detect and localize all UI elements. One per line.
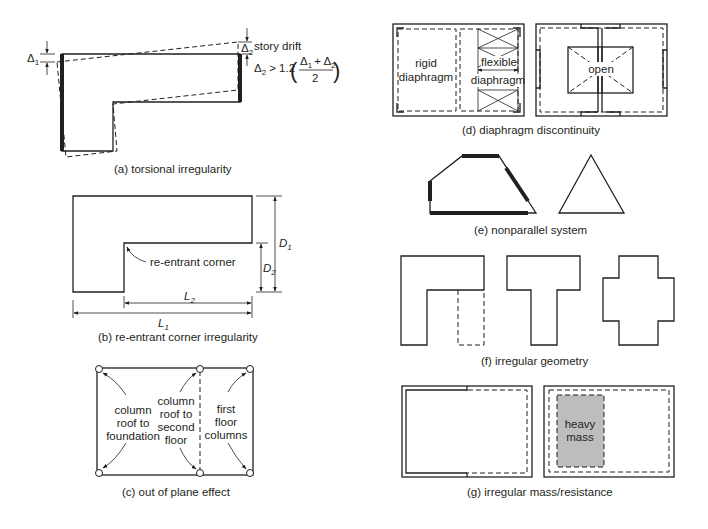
caption-d: (d) diaphragm discontinuity <box>462 124 600 136</box>
deflected-shape <box>57 42 238 157</box>
svg-text:column: column <box>157 395 194 407</box>
mid-column-label: column roof to second floor <box>157 395 194 446</box>
svg-text:roof to: roof to <box>117 417 150 429</box>
l1-label: L1 <box>158 317 169 332</box>
panel-g-irregular-mass: heavy mass (g) irregular mass/resistance <box>402 386 674 498</box>
t-shape-geometry <box>507 256 580 345</box>
svg-text:floor: floor <box>215 416 238 428</box>
flexible-label: flexible <box>481 56 517 68</box>
heavy-mass-label: heavy <box>565 418 596 430</box>
svg-text:2: 2 <box>312 72 318 84</box>
panel-d-diaphragm-discontinuity: rigid diaphragm flexible diaphragm open … <box>393 24 667 136</box>
panel-e-nonparallel-system: (e) nonparallel system <box>430 155 624 236</box>
nonparallel-polygon <box>430 156 536 213</box>
svg-text:roof to: roof to <box>160 408 193 420</box>
l-shape-geometry <box>401 256 484 345</box>
d1-label: D1 <box>279 237 292 252</box>
l-shape-outline <box>62 54 240 151</box>
caption-e: (e) nonparallel system <box>474 224 587 236</box>
caption-c: (c) out of plane effect <box>122 486 231 498</box>
triangle-plan <box>559 155 624 213</box>
right-column-label: first floor columns <box>205 403 248 441</box>
delta2-label: Δ2 <box>241 42 254 57</box>
panel-f-irregular-geometry: (f) irregular geometry <box>401 256 674 367</box>
panel-a-torsional-irregularity: Δ1 Δ2 story drift Δ2> 1.2 ( Δ1+ Δ2 2 ) (… <box>27 28 340 175</box>
cross-shape-geometry <box>603 256 674 345</box>
caption-f: (f) irregular geometry <box>481 355 589 367</box>
caption-a: (a) torsional irregularity <box>114 163 232 175</box>
re-entrant-corner-label: re-entrant corner <box>150 256 236 268</box>
svg-text:Δ1+ Δ2: Δ1+ Δ2 <box>300 55 336 70</box>
panel-c-out-of-plane: column roof to foundation column roof to… <box>96 366 254 499</box>
svg-text:diaphragm: diaphragm <box>399 71 453 83</box>
story-drift-label: story drift <box>254 40 302 52</box>
seismic-irregularities-figure: Δ1 Δ2 story drift Δ2> 1.2 ( Δ1+ Δ2 2 ) (… <box>0 0 708 529</box>
torsion-formula: Δ2> 1.2 ( Δ1+ Δ2 2 ) <box>254 55 340 84</box>
svg-text:): ) <box>333 58 340 83</box>
svg-text:(: ( <box>290 58 298 83</box>
svg-text:Δ2> 1.2: Δ2> 1.2 <box>254 62 295 77</box>
svg-text:floor: floor <box>165 434 188 446</box>
d2-label: D2 <box>263 262 276 277</box>
svg-text:mass: mass <box>566 431 594 443</box>
flexible-bracing <box>478 29 518 111</box>
delta1-label: Δ1 <box>27 52 40 67</box>
left-column-label: column roof to foundation <box>106 404 160 442</box>
svg-text:columns: columns <box>205 429 248 441</box>
svg-text:diaphragm: diaphragm <box>471 74 525 86</box>
rigid-diaphragm-zone <box>398 29 456 111</box>
caption-b: (b) re-entrant corner irregularity <box>98 331 258 343</box>
caption-g: (g) irregular mass/resistance <box>467 486 613 498</box>
panel-b-re-entrant-corner: re-entrant corner D1 D2 L2 L1 (b) re-ent… <box>73 196 292 343</box>
svg-text:first: first <box>217 403 236 415</box>
svg-text:column: column <box>114 404 151 416</box>
l-shape-plan <box>73 196 252 292</box>
open-label: open <box>588 63 614 75</box>
rigid-label: rigid <box>415 57 437 69</box>
resistance-building <box>402 386 532 477</box>
svg-text:second: second <box>157 421 194 433</box>
svg-text:foundation: foundation <box>106 430 160 442</box>
